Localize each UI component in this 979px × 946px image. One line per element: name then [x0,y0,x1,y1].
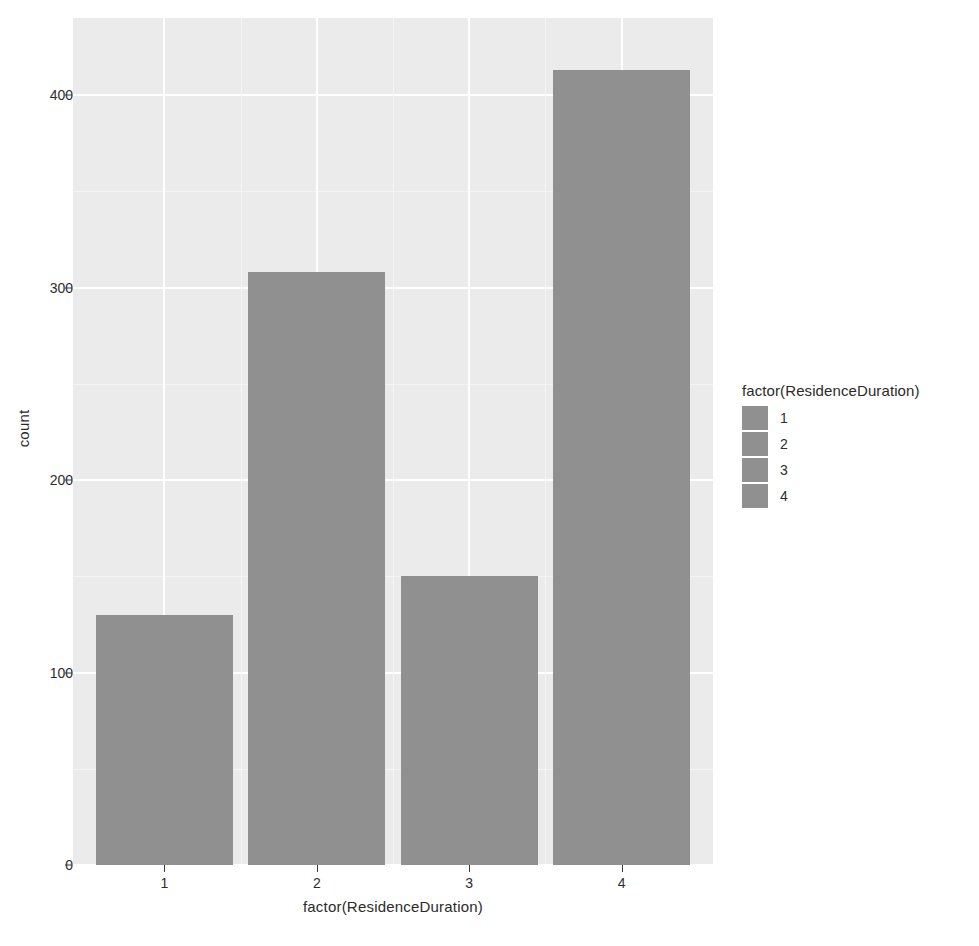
x-tick-mark [164,865,165,872]
legend-label: 4 [780,488,788,504]
legend-entry: 4 [742,483,972,509]
legend-entry: 1 [742,405,972,431]
x-tick-mark [317,865,318,872]
legend-key-swatch [742,432,768,456]
y-axis-ticks: 0100200300400 [0,0,73,946]
gridline-minor-vertical [241,18,242,865]
legend-label: 2 [780,436,788,452]
legend-title: factor(ResidenceDuration) [742,382,972,399]
y-tick-label: 200 [3,472,73,488]
ggplot-bar-chart: count 0100200300400 1234 factor(Residenc… [0,0,979,946]
x-tick-label: 1 [161,875,169,891]
x-tick-mark [622,865,623,872]
bar [248,272,385,865]
x-tick-label: 3 [465,875,473,891]
legend-key-swatch [742,406,768,430]
legend-key-swatch [742,458,768,482]
gridline-minor-vertical [393,18,394,865]
x-tick-mark [469,865,470,872]
y-tick-label: 300 [3,280,73,296]
y-tick-mark [65,865,72,866]
legend-key-swatch [742,484,768,508]
legend-entries: 1234 [742,405,972,509]
x-axis-title: factor(ResidenceDuration) [73,898,713,915]
y-tick-label: 100 [3,665,73,681]
bar [96,615,233,865]
y-tick-label: 400 [3,87,73,103]
y-tick-label: 0 [3,857,73,873]
x-tick-label: 4 [618,875,626,891]
x-tick-label: 2 [313,875,321,891]
bar [401,576,538,865]
y-tick-mark [65,95,72,96]
legend-entry: 2 [742,431,972,457]
legend-entry: 3 [742,457,972,483]
legend: factor(ResidenceDuration) 1234 [742,382,972,509]
bar [553,70,690,865]
y-tick-mark [65,672,72,673]
plot-panel [73,18,713,865]
legend-label: 3 [780,462,788,478]
legend-label: 1 [780,410,788,426]
y-tick-mark [65,480,72,481]
y-tick-mark [65,287,72,288]
gridline-minor-vertical [545,18,546,865]
